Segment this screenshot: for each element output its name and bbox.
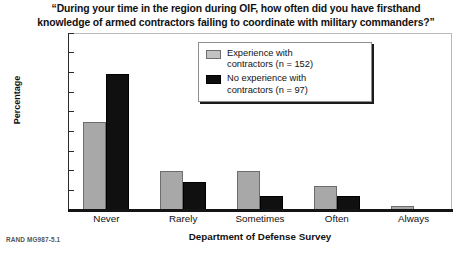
legend-item-experience: Experience with contractors (n = 152) — [206, 48, 365, 70]
x-tick-label: Sometimes — [217, 213, 303, 224]
legend-swatch-black-icon — [206, 75, 221, 84]
bar — [237, 171, 260, 210]
legend-label-no-experience: No experience with contractors (n = 97) — [227, 73, 308, 95]
legend-label-experience-line-1: Experience with — [227, 48, 313, 59]
bar — [314, 186, 337, 210]
chart-figure: “During your time in the region during O… — [0, 0, 471, 259]
bar — [160, 171, 183, 210]
legend-swatch-gray-icon — [206, 50, 221, 59]
x-tick-label: Always — [371, 213, 457, 224]
x-axis-line — [68, 209, 453, 212]
bar-group — [391, 33, 437, 210]
bar — [183, 182, 206, 210]
bar — [260, 196, 283, 210]
x-axis-tick-labels: NeverRarelySometimesOftenAlways — [68, 213, 452, 229]
legend-label-experience-line-2: contractors (n = 152) — [227, 59, 313, 70]
x-tick-label: Rarely — [140, 213, 226, 224]
chart-title: “During your time in the region during O… — [18, 2, 454, 29]
y-axis-label: Percentage — [12, 55, 22, 145]
x-tick-label: Never — [63, 213, 149, 224]
bar — [106, 74, 129, 210]
bar — [337, 196, 360, 210]
chart-legend: Experience with contractors (n = 152) No… — [198, 42, 372, 102]
legend-label-no-experience-line-2: contractors (n = 97) — [227, 85, 308, 96]
x-tick-label: Often — [294, 213, 380, 224]
bar-group — [83, 33, 129, 210]
legend-item-no-experience: No experience with contractors (n = 97) — [206, 73, 365, 95]
figure-footnote: RAND MG987-5.1 — [6, 236, 60, 243]
legend-label-no-experience-line-1: No experience with — [227, 73, 308, 84]
bar — [83, 122, 106, 211]
legend-label-experience: Experience with contractors (n = 152) — [227, 48, 313, 70]
x-axis-label: Department of Defense Survey — [68, 231, 452, 242]
chart-title-line-1: “During your time in the region during O… — [18, 2, 454, 16]
chart-title-line-2: knowledge of armed contractors failing t… — [18, 16, 454, 30]
